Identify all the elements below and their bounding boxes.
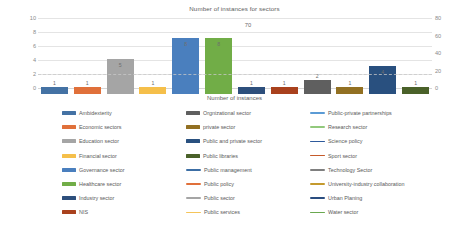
legend-item[interactable]: Public policy [186, 181, 310, 187]
legend-swatch-icon [186, 169, 201, 171]
legend-item-label: Education sector [79, 138, 119, 144]
legend-item[interactable]: Sport sector [310, 153, 414, 159]
legend-item[interactable]: Education sector [62, 138, 186, 144]
legend-item-label: Public management [204, 167, 252, 173]
y-axis-tick-0: 0 [33, 85, 36, 91]
legend-item[interactable]: University-industry collaboration [310, 181, 414, 187]
chart-container: Number of instances for sectors 1086420 … [0, 0, 469, 234]
legend-item[interactable]: NIS [62, 209, 186, 215]
legend-swatch-icon [310, 197, 325, 199]
legend-item-label: Healthcare sector [79, 181, 121, 187]
bar: 1 [74, 87, 101, 94]
legend-item[interactable]: Financial sector [62, 153, 186, 159]
bar: 1 [336, 87, 363, 94]
bar: 1 [41, 87, 68, 94]
legend-item-label: Public policy [204, 181, 234, 187]
bar: 1 [139, 87, 166, 94]
legend-item-label: Public-private partnerships [328, 110, 392, 116]
legend-item[interactable]: Public management [186, 167, 310, 173]
legend-swatch-icon [310, 141, 325, 143]
chart-annotation: 70 [245, 22, 251, 28]
legend-item[interactable]: Public-private partnerships [310, 110, 414, 116]
legend-item[interactable]: Public sector [186, 195, 310, 201]
legend-item[interactable]: Orgnizational sector [186, 110, 310, 116]
legend-swatch-icon [310, 112, 325, 114]
legend-item-label: Science policy [328, 138, 362, 144]
y-axis-primary: 1086420 [18, 18, 38, 94]
chart-legend: AmbidexterityOrgnizational sectorPublic-… [62, 106, 414, 220]
legend-item-label: Research sector [328, 124, 367, 130]
legend-item-label: Economic sectors [79, 124, 122, 130]
legend-swatch-icon [186, 183, 201, 185]
legend-swatch-icon [186, 111, 200, 115]
y2-axis-tick-40: 40 [435, 50, 441, 56]
legend-item-label: Public services [204, 209, 240, 215]
legend-swatch-icon [310, 212, 325, 214]
legend-item-label: Public sector [204, 195, 235, 201]
legend-swatch-icon [186, 197, 201, 199]
legend-item-label: Urban Planing [328, 195, 362, 201]
legend-swatch-icon [62, 182, 76, 186]
legend-swatch-icon [186, 212, 201, 214]
y2-axis-tick-20: 20 [435, 68, 441, 74]
legend-item-label: Public libraries [203, 153, 238, 159]
y-axis-tick-4: 4 [33, 57, 36, 63]
legend-swatch-icon [310, 183, 325, 185]
line-series-overlay: 70 [38, 18, 432, 88]
legend-item[interactable]: Industry sector [62, 195, 186, 201]
y-axis-tick-8: 8 [33, 29, 36, 35]
y-axis-tick-2: 2 [33, 71, 36, 77]
legend-swatch-icon [62, 196, 76, 200]
legend-item-label: Financial sector [79, 153, 117, 159]
legend-item[interactable]: Research sector [310, 124, 414, 130]
y2-axis-tick-60: 60 [435, 33, 441, 39]
legend-item-label: Industry sector [79, 195, 114, 201]
secondary-series-line [38, 74, 432, 75]
x-axis-label: Number of instances [0, 95, 469, 101]
legend-item[interactable]: Science policy [310, 138, 414, 144]
legend-swatch-icon [186, 139, 200, 143]
legend-swatch-icon [186, 154, 200, 158]
legend-item-label: private sector [203, 124, 235, 130]
y2-axis-tick-80: 80 [435, 15, 441, 21]
legend-item[interactable]: Healthcare sector [62, 181, 186, 187]
chart-title: Number of instances for sectors [0, 5, 469, 12]
legend-swatch-icon [62, 139, 76, 143]
legend-item[interactable]: Public libraries [186, 153, 310, 159]
plot-area: 1086420 806040200 115188112141 70 [0, 18, 469, 94]
legend-item[interactable]: Water sector [310, 209, 414, 215]
legend-item[interactable]: Public and private sector [186, 138, 310, 144]
legend-item-label: Water sector [328, 209, 358, 215]
y-axis-tick-6: 6 [33, 43, 36, 49]
legend-item[interactable]: Public services [186, 209, 310, 215]
legend-item[interactable]: Ambidexterity [62, 110, 186, 116]
legend-swatch-icon [186, 125, 200, 129]
bar: 1 [271, 87, 298, 94]
legend-swatch-icon [62, 168, 76, 172]
y-axis-secondary: 806040200 [432, 18, 454, 94]
y2-axis-tick-0: 0 [435, 85, 438, 91]
legend-item-label: University-industry collaboration [328, 181, 404, 187]
legend-swatch-icon [310, 169, 325, 171]
legend-item-label: Orgnizational sector [203, 110, 251, 116]
legend-item-label: Sport sector [328, 153, 357, 159]
legend-swatch-icon [62, 154, 76, 158]
legend-swatch-icon [62, 125, 76, 129]
legend-item[interactable]: Economic sectors [62, 124, 186, 130]
legend-item[interactable]: Urban Planing [310, 195, 414, 201]
legend-item[interactable]: Technology Sector [310, 167, 414, 173]
legend-swatch-icon [62, 111, 76, 115]
legend-item-label: NIS [79, 209, 88, 215]
legend-item[interactable]: private sector [186, 124, 310, 130]
bar: 1 [402, 87, 429, 94]
legend-item-label: Technology Sector [328, 167, 372, 173]
legend-item-label: Ambidexterity [79, 110, 112, 116]
legend-swatch-icon [62, 210, 76, 214]
y-axis-tick-10: 10 [30, 15, 36, 21]
legend-swatch-icon [310, 126, 325, 128]
legend-item-label: Public and private sector [203, 138, 262, 144]
legend-item-label: Governance sector [79, 167, 125, 173]
legend-item[interactable]: Governance sector [62, 167, 186, 173]
bar: 1 [238, 87, 265, 94]
legend-swatch-icon [310, 155, 325, 157]
